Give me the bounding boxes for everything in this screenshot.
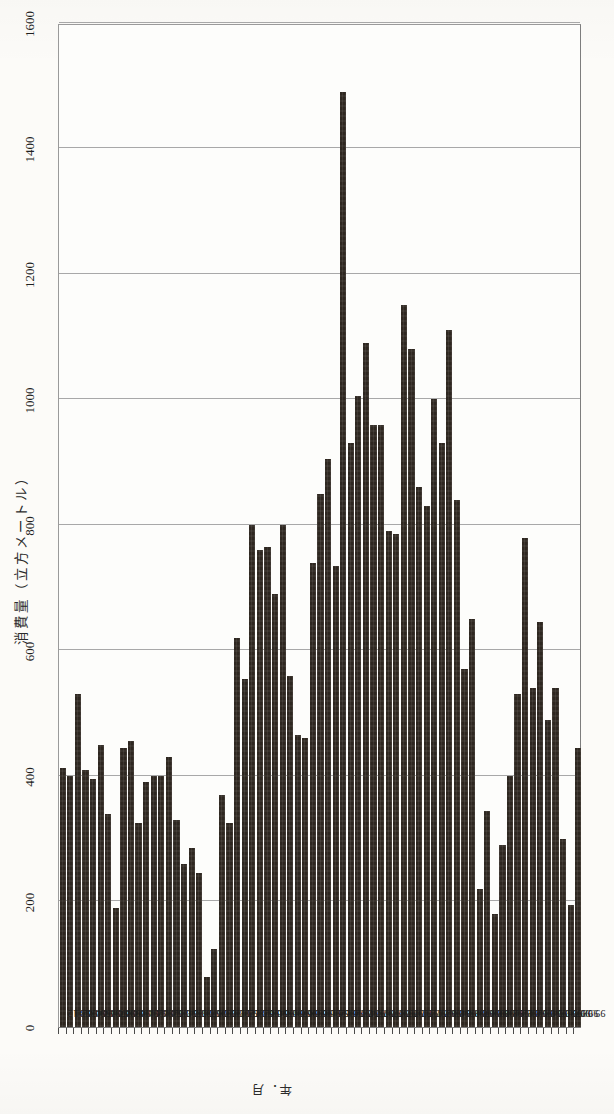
category-tick (217, 1028, 218, 1034)
bar (120, 748, 126, 1027)
bar (280, 525, 286, 1027)
value-tick-label: 800 (22, 516, 38, 536)
bar (393, 534, 399, 1027)
category-tick (141, 1028, 142, 1034)
category-label: 99.08 (583, 1008, 606, 1019)
bar (355, 396, 361, 1027)
rotated-figure-wrapper: 消費量（立方メートル） 年．月 020040060080010001200140… (0, 0, 614, 1114)
bar (560, 839, 566, 1027)
bar (333, 566, 339, 1027)
bar (287, 676, 293, 1027)
category-tick (240, 1028, 241, 1034)
bar (484, 811, 490, 1027)
bar (173, 820, 179, 1027)
gridline (59, 148, 580, 149)
bar (143, 782, 149, 1027)
category-tick (96, 1028, 97, 1034)
category-tick (81, 1028, 82, 1034)
category-tick (270, 1028, 271, 1034)
bar (166, 757, 172, 1027)
bar (60, 768, 66, 1027)
bar (257, 550, 263, 1027)
bar (151, 776, 157, 1027)
category-tick (414, 1028, 415, 1034)
bar (522, 538, 528, 1027)
bar (242, 679, 248, 1027)
category-tick (164, 1028, 165, 1034)
category-tick (187, 1028, 188, 1034)
category-tick (134, 1028, 135, 1034)
category-tick (429, 1028, 430, 1034)
category-tick (376, 1028, 377, 1034)
category-tick (111, 1028, 112, 1034)
category-tick (103, 1028, 104, 1034)
value-tick-label: 600 (22, 642, 38, 662)
category-tick (467, 1028, 468, 1034)
bar (234, 638, 240, 1027)
category-tick (308, 1028, 309, 1034)
bar (340, 92, 346, 1027)
bar (477, 889, 483, 1027)
category-tick (573, 1028, 574, 1034)
bar (408, 349, 414, 1027)
category-tick (513, 1028, 514, 1034)
category-tick (399, 1028, 400, 1034)
category-tick (202, 1028, 203, 1034)
bar (545, 720, 551, 1027)
category-tick (293, 1028, 294, 1034)
value-tick-label: 200 (22, 893, 38, 913)
category-tick (475, 1028, 476, 1034)
bar (575, 748, 581, 1027)
bar (370, 425, 376, 1027)
bar (416, 487, 422, 1027)
bar (363, 343, 369, 1027)
bar (386, 531, 392, 1027)
bar (158, 776, 164, 1027)
bar (348, 443, 354, 1027)
bar (325, 459, 331, 1027)
bar (302, 738, 308, 1027)
bar (499, 845, 505, 1027)
value-axis-title: 消費量（立方メートル） (10, 0, 30, 1114)
category-tick (422, 1028, 423, 1034)
category-tick (73, 1028, 74, 1034)
category-tick (157, 1028, 158, 1034)
bar (310, 563, 316, 1027)
bar-chart-figure: 消費量（立方メートル） 年．月 020040060080010001200140… (0, 0, 614, 1114)
category-tick (551, 1028, 552, 1034)
gridline (59, 399, 580, 400)
bar (128, 742, 134, 1028)
category-tick (520, 1028, 521, 1034)
gridline (59, 22, 580, 23)
category-tick (536, 1028, 537, 1034)
bar (424, 506, 430, 1027)
category-tick (255, 1028, 256, 1034)
bar (135, 823, 141, 1027)
category-tick (194, 1028, 195, 1034)
category-tick (361, 1028, 362, 1034)
value-tick-label: 1600 (22, 11, 38, 37)
bar (98, 745, 104, 1027)
category-tick (452, 1028, 453, 1034)
value-tick-label: 1000 (22, 388, 38, 414)
bar (196, 873, 202, 1027)
bar (105, 814, 111, 1027)
bar (181, 864, 187, 1027)
bar (507, 776, 513, 1027)
category-tick (247, 1028, 248, 1034)
category-tick (149, 1028, 150, 1034)
bar (226, 823, 232, 1027)
category-tick (445, 1028, 446, 1034)
category-tick (437, 1028, 438, 1034)
category-tick (263, 1028, 264, 1034)
value-tick-label: 0 (22, 1025, 38, 1032)
bar (537, 622, 543, 1027)
category-tick (558, 1028, 559, 1034)
category-tick (210, 1028, 211, 1034)
category-tick (58, 1028, 59, 1034)
bar (189, 848, 195, 1027)
category-tick (482, 1028, 483, 1034)
bar (530, 688, 536, 1027)
category-tick (460, 1028, 461, 1034)
bar (461, 669, 467, 1027)
